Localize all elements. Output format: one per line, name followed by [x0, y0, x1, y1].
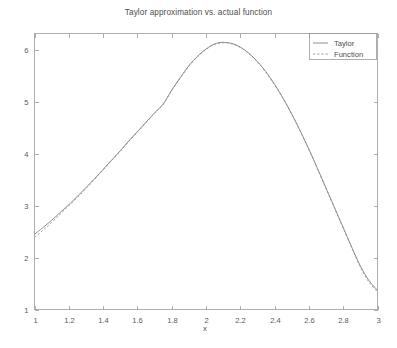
- y-axis-tick-labels: 123456: [24, 46, 28, 315]
- x-tick-label: 2.6: [304, 316, 315, 325]
- x-tick-label: 2.2: [235, 316, 246, 325]
- figure-canvas: Taylor approximation vs. actual function…: [0, 0, 397, 348]
- series-line-function: [35, 43, 378, 292]
- x-tick-label: 1.6: [132, 316, 143, 325]
- y-tick-label: 3: [24, 202, 28, 211]
- axes-group: [35, 34, 379, 311]
- y-tick-label: 1: [24, 306, 28, 315]
- legend-label-function: Function: [334, 50, 363, 59]
- series-line-taylor: [35, 42, 378, 290]
- x-tick-label: 3: [376, 316, 380, 325]
- series-group: [35, 42, 378, 292]
- x-tick-label: 1.8: [167, 316, 178, 325]
- y-tick-label: 5: [24, 98, 28, 107]
- axes-frame: [35, 34, 378, 310]
- legend-label-taylor: Taylor: [334, 39, 355, 48]
- x-axis-label: x: [203, 324, 207, 333]
- chart-legend[interactable]: TaylorFunction: [310, 34, 377, 60]
- x-tick-label: 1: [33, 316, 37, 325]
- chart-plot: 11.21.41.61.822.22.42.62.83 123456 x Tay…: [0, 0, 397, 348]
- x-axis-tick-labels: 11.21.41.61.822.22.42.62.83: [33, 316, 380, 325]
- x-axis-ticks: [36, 34, 379, 310]
- x-tick-label: 1.4: [98, 316, 109, 325]
- x-tick-label: 1.2: [64, 316, 75, 325]
- y-tick-label: 4: [24, 150, 28, 159]
- x-tick-label: 2.4: [270, 316, 281, 325]
- y-tick-label: 6: [24, 46, 28, 55]
- y-axis-ticks: [35, 51, 378, 311]
- x-tick-label: 2.8: [338, 316, 349, 325]
- y-tick-label: 2: [24, 254, 28, 263]
